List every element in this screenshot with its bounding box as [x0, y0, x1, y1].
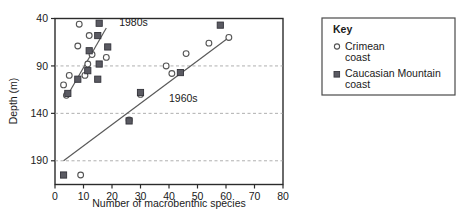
y-tick-label-90: 90 — [36, 60, 48, 72]
y-tick-label-40: 40 — [36, 12, 48, 24]
trendline-1960s — [64, 37, 229, 160]
annotation-1960s: 1960s — [169, 92, 198, 104]
data-point-open-circle — [206, 40, 212, 46]
y-axis-title: Depth (m) — [7, 78, 19, 125]
data-point-filled-square — [137, 89, 143, 95]
data-point-filled-square — [86, 48, 92, 54]
y-tick-label-190: 190 — [30, 154, 48, 166]
data-point-open-circle — [163, 63, 169, 69]
data-point-filled-square — [95, 32, 101, 38]
x-tick-label-70: 70 — [249, 190, 261, 202]
annotation-1980s: 1980s — [119, 16, 148, 28]
series-caucasian — [60, 20, 223, 178]
scatter-plot-svg: 4090140190 01020304050607080 1980s1960s … — [0, 0, 461, 212]
data-point-open-circle — [86, 33, 92, 39]
data-point-open-circle — [169, 71, 175, 77]
data-point-filled-square — [177, 69, 183, 75]
legend-label-crimean-line2: coast — [345, 51, 370, 63]
chart-figure: 4090140190 01020304050607080 1980s1960s … — [0, 0, 461, 212]
data-point-open-circle — [183, 51, 189, 57]
legend-title: Key — [333, 23, 352, 35]
gridlines — [55, 66, 283, 161]
data-point-open-circle — [76, 21, 82, 27]
data-point-open-circle — [66, 73, 72, 79]
data-point-filled-square — [126, 118, 132, 124]
legend-filled-square-icon — [334, 72, 340, 78]
x-axis-title: Number of macrobenthic species — [92, 197, 246, 209]
data-point-filled-square — [217, 22, 223, 28]
data-point-filled-square — [65, 90, 71, 96]
data-point-open-circle — [61, 82, 67, 88]
data-point-filled-square — [105, 44, 111, 50]
y-tick-label-140: 140 — [30, 107, 48, 119]
x-tick-label-10: 10 — [78, 190, 90, 202]
data-point-open-circle — [103, 54, 109, 60]
data-point-open-circle — [85, 61, 91, 67]
data-point-open-circle — [75, 43, 81, 49]
x-tick-label-80: 80 — [277, 190, 289, 202]
data-point-filled-square — [96, 61, 102, 67]
y-axis: 4090140190 — [30, 12, 55, 166]
legend-label-caucasian-line2: coast — [345, 78, 370, 90]
legend: Key Crimean coast Caucasian Mountain coa… — [322, 18, 455, 95]
data-point-filled-square — [95, 76, 101, 82]
data-point-filled-square — [96, 20, 102, 26]
data-point-filled-square — [75, 76, 81, 82]
x-tick-label-0: 0 — [52, 190, 58, 202]
data-point-open-circle — [226, 35, 232, 41]
data-point-filled-square — [85, 68, 91, 74]
data-point-filled-square — [60, 172, 66, 178]
data-point-open-circle — [78, 172, 84, 178]
